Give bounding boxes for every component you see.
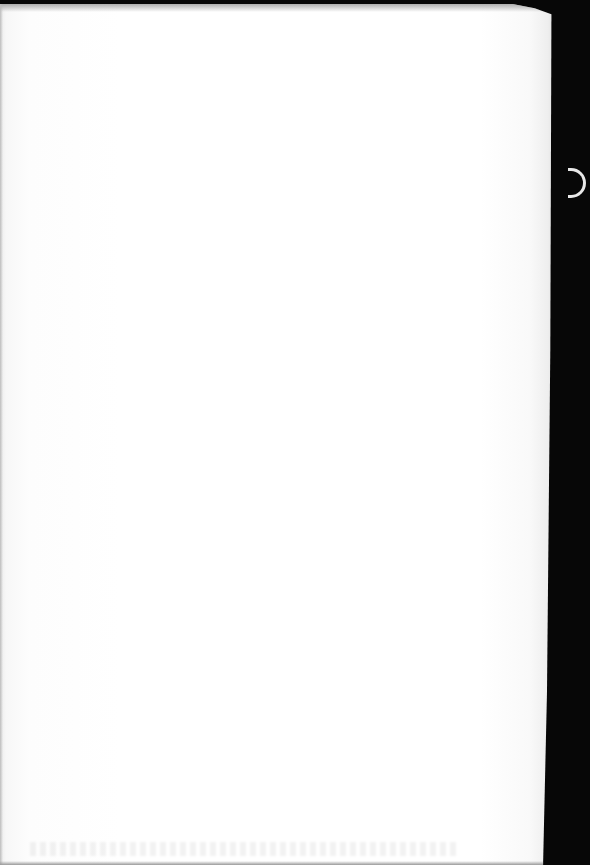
bleed-through-marks — [30, 842, 460, 856]
blank-page — [0, 4, 557, 865]
page-bottom-edge — [0, 861, 557, 865]
page-left-edge — [0, 4, 3, 865]
page-top-shadow — [0, 4, 557, 12]
